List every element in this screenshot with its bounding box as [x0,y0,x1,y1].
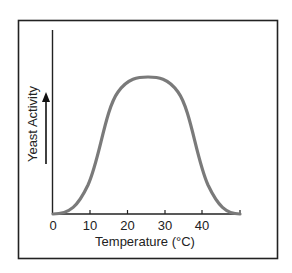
arrow-up-icon [42,92,50,102]
x-axis-title: Temperature (°C) [95,234,195,249]
y-axis-title: Yeast Activity [25,85,40,162]
activity-curve [53,77,240,214]
x-tick-label: 0 [49,218,56,233]
chart: 0 10 20 30 40 Temperature (°C) Yeast Act… [0,0,292,273]
x-tick-label: 20 [120,218,134,233]
x-tick-label: 30 [158,218,172,233]
x-tick-label: 40 [195,218,209,233]
x-tick-label: 10 [83,218,97,233]
chart-frame [19,21,278,259]
